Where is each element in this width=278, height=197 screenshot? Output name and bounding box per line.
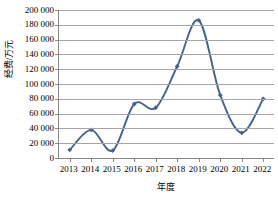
y-tick-mark: [55, 54, 59, 55]
y-tick-mark: [55, 158, 59, 159]
y-axis-tick-labels: 020 00040 00060 00080 000100 000120 0001…: [0, 0, 58, 197]
y-tick-label: 100 000: [0, 80, 54, 89]
y-tick-label: 160 000: [0, 35, 54, 44]
y-tick-mark: [55, 114, 59, 115]
x-tick-mark: [156, 158, 157, 162]
y-tick-label: 40 000: [0, 124, 54, 133]
gridline: [59, 128, 274, 129]
y-tick-label: 200 000: [0, 6, 54, 15]
y-tick-mark: [55, 40, 59, 41]
gridline: [59, 10, 274, 11]
data-point-marker: [239, 130, 244, 135]
y-tick-label: 140 000: [0, 50, 54, 59]
gridline: [59, 69, 274, 70]
y-tick-label: 60 000: [0, 109, 54, 118]
x-tick-mark: [91, 158, 92, 162]
x-tick-mark: [177, 158, 178, 162]
line-chart: 经费/万元 020 00040 00060 00080 000100 00012…: [0, 0, 278, 197]
y-tick-label: 0: [0, 154, 54, 163]
gridline: [59, 84, 274, 85]
x-tick-mark: [113, 158, 114, 162]
x-tick-label: 2022: [247, 164, 277, 175]
x-tick-mark: [242, 158, 243, 162]
x-tick-mark: [263, 158, 264, 162]
x-tick-mark: [199, 158, 200, 162]
gridline: [59, 99, 274, 100]
gridline: [59, 143, 274, 144]
x-axis-tick-labels: 2013201420152016201720182019202020212022: [58, 164, 278, 176]
gridline: [59, 40, 274, 41]
x-axis-title: 年度: [58, 180, 273, 193]
data-point-marker: [218, 93, 223, 98]
y-tick-mark: [55, 143, 59, 144]
y-tick-mark: [55, 10, 59, 11]
y-tick-mark: [55, 25, 59, 26]
y-tick-mark: [55, 84, 59, 85]
y-tick-mark: [55, 128, 59, 129]
plot-area: [58, 10, 274, 159]
y-tick-label: 80 000: [0, 94, 54, 103]
x-tick-mark: [70, 158, 71, 162]
gridline: [59, 54, 274, 55]
y-tick-mark: [55, 69, 59, 70]
y-tick-label: 20 000: [0, 139, 54, 148]
x-tick-mark: [220, 158, 221, 162]
y-tick-mark: [55, 99, 59, 100]
y-tick-label: 120 000: [0, 65, 54, 74]
gridline: [59, 114, 274, 115]
gridline: [59, 25, 274, 26]
x-tick-mark: [134, 158, 135, 162]
y-tick-label: 180 000: [0, 20, 54, 29]
